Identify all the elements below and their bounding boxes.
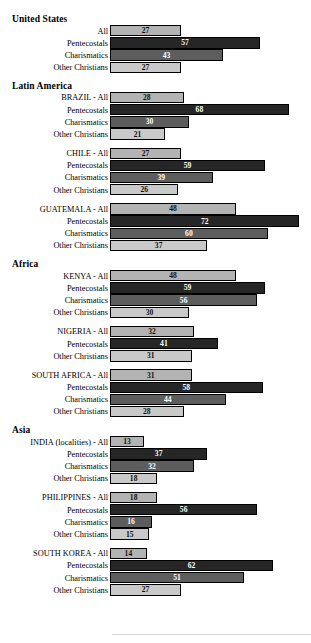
bar: 57 (110, 37, 260, 48)
bar-row: Other Christians27 (0, 584, 311, 596)
country-group: PHILIPPINES - All18Pentecostals56Charism… (0, 492, 311, 541)
chart-baseline (112, 634, 311, 635)
bar-row-label: Pentecostals (0, 561, 110, 570)
bar-value-label: 21 (134, 131, 142, 139)
bar-value-label: 30 (146, 118, 154, 126)
bar-track: 27 (110, 584, 311, 596)
bar-row: KENYA - All48 (0, 270, 311, 282)
bar-value-label: 62 (188, 562, 196, 570)
bar-value-label: 41 (160, 340, 168, 348)
bar-row-label: Other Christians (0, 186, 110, 195)
bar-row-label: Other Christians (0, 352, 110, 361)
bar-row: Other Christians21 (0, 128, 311, 140)
bar-row: Pentecostals72 (0, 215, 311, 227)
bar-value-label: 32 (148, 463, 156, 471)
bar-track: 48 (110, 203, 311, 215)
bar: 48 (110, 203, 236, 214)
bar-row-label: Pentecostals (0, 383, 110, 392)
bar: 59 (110, 282, 265, 293)
group-spacer (0, 141, 311, 148)
bar: 28 (110, 406, 184, 417)
group-spacer (0, 362, 311, 369)
bar-row: NIGERIA - All32 (0, 326, 311, 338)
bar-track: 57 (110, 37, 311, 49)
bar: 31 (110, 350, 192, 361)
bar: 18 (110, 492, 157, 503)
group-spacer (0, 319, 311, 326)
bar: 32 (110, 460, 194, 471)
bar: 43 (110, 49, 223, 60)
bar-track: 48 (110, 270, 311, 282)
bar-track: 18 (110, 473, 311, 485)
bar-row-label: Other Christians (0, 130, 110, 139)
bar-row-label: CHILE - All (0, 149, 110, 158)
bar: 51 (110, 572, 244, 583)
bar-value-label: 39 (157, 174, 165, 182)
country-group: SOUTH AFRICA - All31Pentecostals58Charis… (0, 369, 311, 418)
bar-track: 14 (110, 548, 311, 560)
region-heading: Asia (0, 425, 311, 436)
country-group: KENYA - All48Pentecostals59Charismatics5… (0, 270, 311, 319)
bar: 15 (110, 528, 149, 539)
bar: 26 (110, 184, 178, 195)
bar-row-label: INDIA (localities) - All (0, 438, 110, 447)
bar: 30 (110, 307, 189, 318)
bar-row: Pentecostals62 (0, 560, 311, 572)
bar-row: Pentecostals58 (0, 382, 311, 394)
bar-row-label: Pentecostals (0, 450, 110, 459)
bar-track: 27 (110, 25, 311, 37)
bar-row: Pentecostals59 (0, 160, 311, 172)
bar-row-label: Pentecostals (0, 506, 110, 515)
bar-value-label: 16 (127, 518, 135, 526)
bar-track: 27 (110, 148, 311, 160)
bar-row: Other Christians27 (0, 62, 311, 74)
country-group: All27Pentecostals57Charismatics43Other C… (0, 25, 311, 74)
bar-row: Other Christians31 (0, 350, 311, 362)
bar-row: BRAZIL - All28 (0, 92, 311, 104)
bar-track: 37 (110, 240, 311, 252)
bar-row-label: BRAZIL - All (0, 93, 110, 102)
bar-row: CHILE - All27 (0, 148, 311, 160)
country-group: GUATEMALA - All48Pentecostals72Charismat… (0, 203, 311, 252)
bar-value-label: 13 (123, 438, 131, 446)
bar-row-label: Charismatics (0, 518, 110, 527)
country-group: NIGERIA - All32Pentecostals41Other Chris… (0, 326, 311, 363)
bar: 58 (110, 382, 263, 393)
bar-row-label: Charismatics (0, 296, 110, 305)
bar-track: 58 (110, 382, 311, 394)
bar-track: 60 (110, 228, 311, 240)
bar-value-label: 31 (147, 372, 155, 380)
bar-track: 68 (110, 104, 311, 116)
group-spacer (0, 196, 311, 203)
country-group: INDIA (localities) - All13Pentecostals37… (0, 436, 311, 485)
bar-row-label: Charismatics (0, 229, 110, 238)
bar-value-label: 48 (169, 272, 177, 280)
bar-row-label: PHILIPPINES - All (0, 493, 110, 502)
bar-row: Charismatics60 (0, 228, 311, 240)
bar: 37 (110, 448, 207, 459)
bar-track: 32 (110, 460, 311, 472)
bar-track: 41 (110, 338, 311, 350)
region-heading: Latin America (0, 81, 311, 92)
bar: 44 (110, 394, 226, 405)
group-spacer (0, 418, 311, 425)
group-spacer (0, 485, 311, 492)
bar-track: 44 (110, 394, 311, 406)
bar-track: 28 (110, 406, 311, 418)
bar-row: Charismatics51 (0, 572, 311, 584)
bar: 68 (110, 104, 289, 115)
bar-value-label: 48 (169, 205, 177, 213)
bar: 21 (110, 128, 165, 139)
regions-container: United StatesAll27Pentecostals57Charisma… (0, 14, 311, 596)
bar-row-label: All (0, 27, 110, 36)
bar-row-label: Charismatics (0, 51, 110, 60)
bar-row: Charismatics39 (0, 172, 311, 184)
bar: 32 (110, 326, 194, 337)
bar-row-label: Pentecostals (0, 39, 110, 48)
bar: 27 (110, 62, 181, 73)
bar-row: SOUTH AFRICA - All31 (0, 369, 311, 381)
bar-value-label: 37 (155, 242, 163, 250)
bar-value-label: 26 (140, 186, 148, 194)
bar: 13 (110, 436, 144, 447)
bar: 41 (110, 338, 218, 349)
